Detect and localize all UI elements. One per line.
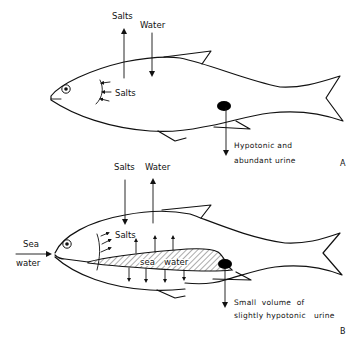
fish-a-urine-line2: abundant urine xyxy=(234,156,296,165)
fish-a-pelvic-fin xyxy=(158,131,186,141)
fish-b-water-label: water xyxy=(16,258,41,268)
fish-b-salts-in-label: Salts xyxy=(114,162,135,172)
fish-a-kidney xyxy=(217,101,231,111)
fish-a-urine-line1: Hypotonic and xyxy=(234,141,292,150)
panel-label-b: B xyxy=(340,327,346,336)
fish-a-body xyxy=(51,57,343,131)
fish-a-salts-out-label: Salts xyxy=(112,11,133,21)
fish-a-water-in-label: Water xyxy=(140,20,166,30)
osmoregulation-diagram: Salts Salts Water Hypotonic and abundant… xyxy=(0,0,359,343)
fish-a-gill-salts-label: Salts xyxy=(115,88,136,98)
panel-label-a: A xyxy=(340,159,346,168)
fish-b-gut-water-label: water xyxy=(164,257,189,267)
fish-b-urine-line1: Small volume of xyxy=(234,298,305,307)
panel-a-freshwater-fish: Salts Salts Water Hypotonic and abundant… xyxy=(51,11,346,168)
fish-b-pelvic-fin xyxy=(157,290,185,298)
fish-b-urine-line2: slightly hypotonic urine xyxy=(234,311,335,320)
fish-b-anal-fin xyxy=(213,272,251,280)
fish-b-sea-label: Sea xyxy=(23,239,39,249)
fish-b-gut-seawater xyxy=(88,249,232,271)
fish-b-gut-sea-label: sea xyxy=(140,257,155,267)
fish-a-anal-fin xyxy=(214,121,250,129)
fish-b-gill-salts-label: Salts xyxy=(115,230,136,240)
fish-b-water-out-label: Water xyxy=(145,162,171,172)
panel-b-marine-fish: sea water Salts Salts Water Sea water Sm… xyxy=(16,162,346,336)
fish-b-kidney xyxy=(218,259,232,269)
fish-a-gill-arch xyxy=(96,80,102,104)
fish-b-body-upper xyxy=(55,211,342,284)
